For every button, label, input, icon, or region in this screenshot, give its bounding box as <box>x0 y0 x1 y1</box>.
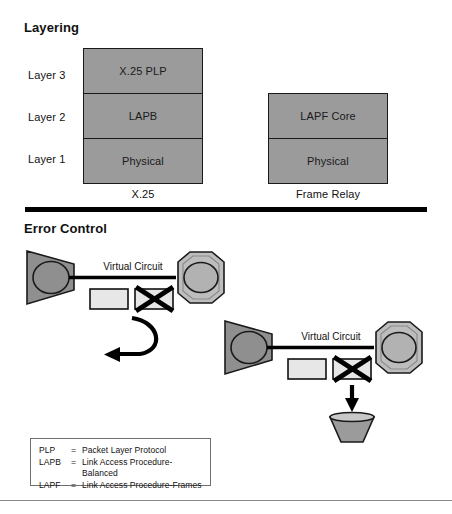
legend-box: PLP = Packet Layer Protocol LAPB = Link … <box>30 438 211 486</box>
legend-key: LAPF <box>39 480 71 492</box>
legend-key: PLP <box>39 445 71 457</box>
discard-bin-rim <box>330 413 374 422</box>
error-control-graphics <box>0 0 452 514</box>
legend-row: LAPB = Link Access Procedure-Balanced <box>39 457 202 480</box>
legend-value: Link Access Procedure-Frames <box>82 480 202 492</box>
node-circle-x25-dest <box>184 263 218 293</box>
retransmit-loop-arrow-path <box>118 318 156 354</box>
legend-row: PLP = Packet Layer Protocol <box>39 445 202 457</box>
discard-arrow-head <box>345 398 359 412</box>
frame-good-fr <box>288 359 326 379</box>
legend-equals: = <box>71 457 82 480</box>
frame-good-x25 <box>90 289 128 309</box>
legend-value: Packet Layer Protocol <box>82 445 202 457</box>
legend-equals: = <box>71 480 82 492</box>
node-circle-x25-source <box>33 262 69 294</box>
bottom-divider-rule <box>0 500 452 501</box>
legend-equals: = <box>71 445 82 457</box>
legend-key: LAPB <box>39 457 71 480</box>
node-circle-fr-dest <box>382 333 416 363</box>
legend-row: LAPF = Link Access Procedure-Frames <box>39 480 202 492</box>
legend-value: Link Access Procedure-Balanced <box>82 457 202 480</box>
node-circle-fr-source <box>231 332 267 364</box>
retransmit-loop-arrow-head <box>104 347 120 362</box>
